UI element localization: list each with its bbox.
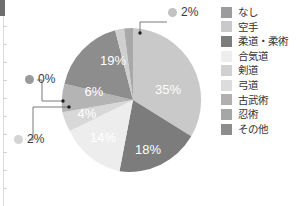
callout-left-0: 0%	[25, 72, 56, 86]
callout-dot-icon	[25, 75, 34, 84]
legend-item-karate[interactable]: 空手	[221, 20, 305, 35]
legend-item-other[interactable]: その他	[221, 122, 305, 137]
edge-tick	[3, 188, 7, 189]
edge-tick	[3, 44, 7, 45]
legend-item-kendo[interactable]: 剣道	[221, 63, 305, 78]
legend-swatch-icon	[221, 94, 232, 105]
legend-item-kyudo[interactable]: 弓道	[221, 78, 305, 93]
edge-tick	[3, 152, 7, 153]
callout-dot-icon	[168, 8, 177, 17]
legend-item-judo-jujutsu[interactable]: 柔道・柔術	[221, 34, 305, 49]
legend-label: 空手	[238, 22, 258, 33]
legend-swatch-icon	[221, 80, 232, 91]
pie-label-kendo: 6%	[85, 84, 104, 99]
legend-item-nashi[interactable]: なし	[221, 5, 305, 20]
page-edge-rule	[3, 0, 4, 206]
legend-label: 柔道・柔術	[238, 36, 288, 47]
legend-label: なし	[238, 7, 258, 18]
pie-graphic: 35% 18% 14% 4% 6% 19%	[58, 20, 208, 180]
legend-label: 古武術	[238, 95, 268, 106]
callout-dot-icon	[14, 135, 23, 144]
pie-label-kyudo: 19%	[100, 53, 126, 68]
pie-label-judo: 14%	[90, 130, 116, 145]
callout-left-0-label: 0%	[38, 72, 56, 86]
legend-swatch-icon	[221, 21, 232, 32]
legend-swatch-icon	[221, 36, 232, 47]
legend-item-aikido[interactable]: 合気道	[221, 49, 305, 64]
legend-item-ninjutsu[interactable]: 忍術	[221, 107, 305, 122]
legend-item-kobujutsu[interactable]: 古武術	[221, 93, 305, 108]
legend-label: 剣道	[238, 65, 258, 76]
legend-swatch-icon	[221, 7, 232, 18]
legend-swatch-icon	[221, 124, 232, 135]
edge-tick	[3, 98, 7, 99]
edge-tick	[3, 62, 7, 63]
pie-label-aikido: 4%	[78, 106, 97, 121]
legend-swatch-icon	[221, 51, 232, 62]
edge-tick	[3, 80, 7, 81]
legend-label: 忍術	[238, 109, 258, 120]
pie-slices	[62, 28, 201, 172]
page-edge-scroll-cap	[0, 0, 5, 16]
callout-left-2-label: 2%	[27, 132, 45, 146]
edge-tick	[3, 170, 7, 171]
legend-swatch-icon	[221, 65, 232, 76]
edge-tick	[3, 116, 7, 117]
legend: なし 空手 柔道・柔術 合気道 剣道 弓道 古武術 忍術	[221, 5, 305, 136]
callout-left-2: 2%	[14, 132, 45, 146]
pie-label-nashi: 35%	[155, 82, 181, 97]
legend-label: 合気道	[238, 51, 268, 62]
legend-label: 弓道	[238, 80, 258, 91]
callout-top-2-label: 2%	[181, 5, 199, 19]
edge-tick	[3, 134, 7, 135]
pie-label-karate: 18%	[135, 142, 161, 157]
callout-top-2: 2%	[168, 5, 199, 19]
edge-tick	[3, 26, 7, 27]
pie-svg: 35% 18% 14% 4% 6% 19%	[58, 20, 208, 180]
legend-swatch-icon	[221, 109, 232, 120]
legend-label: その他	[238, 124, 268, 135]
pie-chart-figure: 35% 18% 14% 4% 6% 19% 2% 0% 2%	[0, 0, 307, 206]
